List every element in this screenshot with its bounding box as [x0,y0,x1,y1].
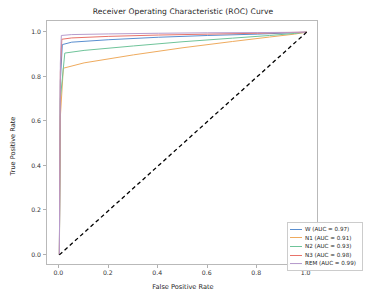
x-axis-label: False Positive Rate [0,283,366,291]
legend-line-swatch [290,229,302,230]
y-tick-mark [43,209,46,210]
y-axis-label: True Positive Rate [9,106,17,186]
legend-item-label: W (AUC = 0.97) [305,225,349,234]
x-tick-mark [207,265,208,268]
y-tick-label: 0.2 [20,206,41,213]
y-tick-mark [43,165,46,166]
y-tick-mark [43,76,46,77]
y-tick-mark [43,254,46,255]
legend-item-n1[interactable]: N1 (AUC = 0.91) [290,234,360,243]
legend-line-swatch [290,255,302,256]
y-tick-label: 0.6 [20,117,41,124]
legend-item-label: N1 (AUC = 0.91) [305,234,351,243]
x-tick-mark [256,265,257,268]
legend-item-n3[interactable]: N3 (AUC = 0.98) [290,251,360,260]
legend-line-swatch [290,246,302,247]
x-tick-label: 0.0 [53,269,63,276]
page-title: Receiver Operating Characteristic (ROC) … [0,7,366,16]
plot-svg [47,21,319,266]
y-tick-label: 0.8 [20,72,41,79]
legend: W (AUC = 0.97)N1 (AUC = 0.91)N2 (AUC = 0… [287,222,363,271]
y-tick-mark [43,31,46,32]
legend-item-w[interactable]: W (AUC = 0.97) [290,225,360,234]
y-tick-label: 1.0 [20,28,41,35]
x-tick-label: 0.8 [251,269,261,276]
legend-item-label: N3 (AUC = 0.98) [305,251,351,260]
roc-curve-figure: Receiver Operating Characteristic (ROC) … [0,0,366,300]
x-tick-label: 0.4 [152,269,162,276]
legend-item-label: N2 (AUC = 0.93) [305,242,351,251]
legend-line-swatch [290,263,302,264]
chance-diagonal-line [59,32,306,255]
y-tick-mark [43,120,46,121]
x-tick-label: 0.6 [202,269,212,276]
y-tick-label: 0.0 [20,250,41,257]
legend-item-label: REM (AUC = 0.99) [305,259,356,268]
x-tick-mark [157,265,158,268]
plot-area [46,20,318,265]
x-tick-label: 0.2 [103,269,113,276]
x-tick-mark [58,265,59,268]
legend-line-swatch [290,237,302,238]
legend-item-n2[interactable]: N2 (AUC = 0.93) [290,242,360,251]
reference-diagonal-path [59,32,306,255]
y-tick-label: 0.4 [20,161,41,168]
legend-item-rem[interactable]: REM (AUC = 0.99) [290,259,360,268]
x-tick-mark [108,265,109,268]
